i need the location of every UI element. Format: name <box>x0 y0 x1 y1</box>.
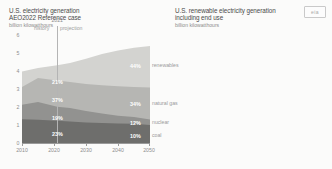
left-label-natural-gas-2050: 34% <box>130 102 141 107</box>
left-chart-header: U.S. electricity generation AEO2022 Refe… <box>9 7 159 29</box>
left-y-tick: 0 <box>17 141 20 146</box>
left-label-coal-2021: 23% <box>52 132 63 137</box>
left-label-renewables-2021: 21% <box>52 80 63 85</box>
left-chart-title: U.S. electricity generation <box>9 7 159 14</box>
left-label-nuclear-2050: 12% <box>130 121 141 126</box>
left-y-tick: 1 <box>17 123 20 128</box>
left-y-tick: 2 <box>17 105 20 110</box>
left-y-tick: 6 <box>17 33 20 38</box>
left-x-tick: 2030 <box>80 147 92 153</box>
left-y-tick: 3 <box>17 87 20 92</box>
left-x-axis: 2010 2020 2030 2040 2050 <box>22 144 150 156</box>
left-projection-label: projection <box>60 25 83 31</box>
right-chart-units: billion kilowatthours <box>175 22 325 28</box>
left-y-tick: 5 <box>17 51 20 56</box>
left-label-coal-2050: 10% <box>130 134 141 139</box>
chart-panel-electricity-generation: U.S. electricity generation AEO2022 Refe… <box>0 0 166 169</box>
right-chart-title: U.S. renewable electricity generation <box>175 7 325 14</box>
left-x-tick: 2040 <box>112 147 124 153</box>
figure-container: U.S. electricity generation AEO2022 Refe… <box>0 0 332 169</box>
left-chart-subtitle: AEO2022 Reference case <box>9 14 159 21</box>
left-series-label-coal: coal <box>152 132 162 138</box>
left-x-tick: 2020 <box>48 147 60 153</box>
left-y-tick: 4 <box>17 69 20 74</box>
right-chart-header: U.S. renewable electricity generation in… <box>175 7 325 29</box>
right-chart-subtitle: including end use <box>175 14 325 21</box>
left-x-tick: 2050 <box>143 147 155 153</box>
left-divider-year: 2021 <box>51 17 63 23</box>
left-label-nuclear-2021: 19% <box>52 116 63 121</box>
left-chart-units: billion kilowatthours <box>9 22 159 28</box>
left-history-label: history <box>34 25 49 31</box>
left-label-renewables-2050: 44% <box>130 64 141 69</box>
left-x-tick: 2010 <box>16 147 28 153</box>
left-label-natural-gas-2021: 37% <box>52 98 63 103</box>
left-plot-area: 6 5 4 3 2 1 0 <box>22 36 150 144</box>
chart-panel-renewable-generation: U.S. renewable electricity generation in… <box>166 0 332 169</box>
eia-logo: eia <box>304 6 326 18</box>
left-stacked-areas <box>22 36 150 144</box>
